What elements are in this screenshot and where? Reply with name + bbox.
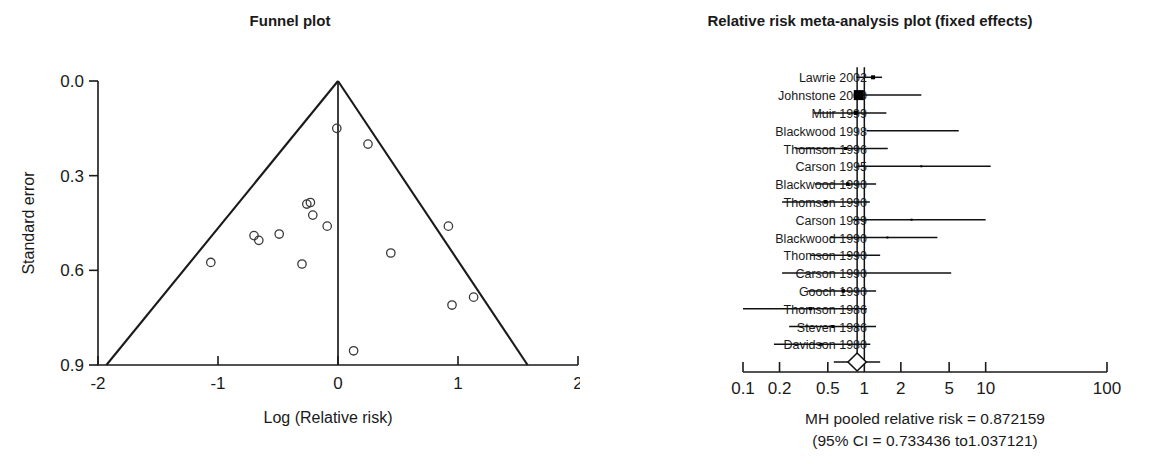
forest-effect-marker — [871, 75, 875, 79]
meta-analysis-figure: Funnel plot 0.00.30.60.9-2-1012Log (Rela… — [0, 0, 1160, 464]
forest-x-tick-label: 0.5 — [816, 379, 840, 398]
forest-row-label: Carson 1989 — [795, 214, 867, 228]
forest-x-tick-label: 0.2 — [768, 379, 792, 398]
forest-effect-marker — [854, 90, 864, 100]
forest-plot-panel: Relative risk meta-analysis plot (fixed … — [580, 0, 1160, 464]
funnel-plot-canvas: 0.00.30.60.9-2-1012Log (Relative risk)St… — [0, 0, 580, 464]
forest-x-tick-label: 10 — [976, 379, 995, 398]
forest-row-label: Carson 1990 — [795, 267, 867, 281]
forest-row-label: Thomson 1990 — [784, 249, 867, 263]
forest-effect-marker — [820, 343, 823, 346]
funnel-data-point — [387, 249, 395, 257]
funnel-x-tick-label: 2 — [573, 374, 580, 393]
forest-x-tick-label: 0.1 — [731, 379, 755, 398]
forest-row-label: Lawrie 2002 — [799, 71, 867, 85]
funnel-y-tick-label: 0.9 — [60, 356, 84, 375]
funnel-x-tick-label: -2 — [90, 374, 105, 393]
funnel-x-tick-label: -1 — [210, 374, 225, 393]
forest-x-tick-label: 100 — [1093, 379, 1121, 398]
forest-row-label: Gooch 1990 — [799, 285, 867, 299]
funnel-data-point — [364, 140, 372, 148]
forest-effect-marker — [911, 219, 913, 221]
funnel-data-point — [349, 347, 357, 355]
forest-footer-line: MH pooled relative risk = 0.872159 — [805, 410, 1045, 427]
forest-row-label: Carson 1995 — [795, 160, 867, 174]
funnel-y-tick-label: 0.0 — [60, 72, 84, 91]
forest-effect-marker — [920, 165, 922, 167]
forest-effect-marker — [831, 325, 834, 328]
funnel-data-point — [250, 231, 258, 239]
funnel-y-axis-label: Standard error — [20, 171, 37, 275]
forest-effect-marker — [824, 200, 828, 204]
funnel-data-point — [207, 258, 215, 266]
funnel-data-point — [448, 301, 456, 309]
forest-effect-marker — [841, 289, 845, 293]
forest-row-label: Davidson 1980 — [784, 338, 867, 352]
forest-x-tick-label: 5 — [944, 379, 953, 398]
funnel-plot-panel: Funnel plot 0.00.30.60.9-2-1012Log (Rela… — [0, 0, 580, 464]
funnel-x-tick-label: 1 — [453, 374, 462, 393]
forest-effect-marker — [846, 182, 850, 186]
funnel-data-point — [275, 230, 283, 238]
funnel-data-point — [309, 211, 317, 219]
funnel-data-point — [298, 260, 306, 268]
funnel-data-point — [323, 222, 331, 230]
forest-footer-line: (95% CI = 0.733436 to1.037121) — [812, 432, 1037, 449]
funnel-left-edge — [106, 81, 338, 365]
forest-row-label: Thomson 1996 — [784, 143, 867, 157]
forest-effect-marker — [854, 111, 858, 115]
forest-x-tick-label: 1 — [860, 379, 869, 398]
forest-row-label: Johnstone 2000 — [778, 89, 867, 103]
forest-row-label: Blackwood 1998 — [775, 125, 867, 139]
pooled-diamond — [848, 353, 866, 371]
forest-row-label: Blackwood 1990 — [775, 178, 867, 192]
forest-effect-marker — [848, 254, 850, 256]
forest-effect-marker — [809, 307, 812, 310]
forest-effect-marker — [844, 147, 847, 150]
funnel-x-tick-label: 0 — [333, 374, 342, 393]
forest-row-label: Muir 1999 — [811, 107, 867, 121]
forest-x-tick-label: 2 — [896, 379, 905, 398]
funnel-data-point — [469, 293, 477, 301]
funnel-data-point — [333, 124, 341, 132]
forest-row-label: Blackwood 1990 — [775, 232, 867, 246]
funnel-x-axis-label: Log (Relative risk) — [264, 409, 393, 426]
funnel-data-point — [444, 222, 452, 230]
forest-effect-marker — [866, 130, 867, 131]
forest-effect-marker — [864, 273, 865, 274]
funnel-y-tick-label: 0.3 — [60, 167, 84, 186]
funnel-y-tick-label: 0.6 — [60, 261, 84, 280]
forest-row-label: Thomson 1986 — [784, 303, 867, 317]
funnel-right-edge — [338, 81, 528, 365]
forest-plot-canvas: Lawrie 2002Johnstone 2000Muir 1999Blackw… — [580, 0, 1160, 464]
forest-effect-marker — [886, 237, 888, 239]
funnel-data-point — [255, 236, 263, 244]
